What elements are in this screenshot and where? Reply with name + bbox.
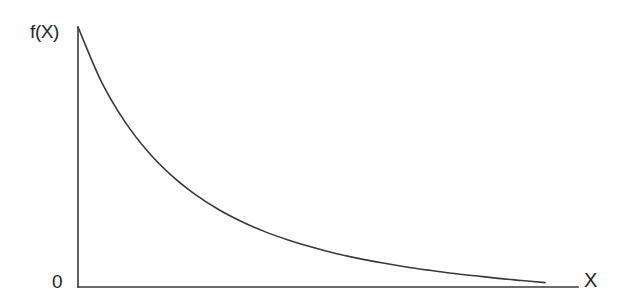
exponential-decay-curve <box>78 27 545 283</box>
x-axis-label: X <box>584 270 597 290</box>
y-axis-label: f(X) <box>30 22 59 41</box>
plot-canvas <box>0 0 622 306</box>
exponential-decay-figure: f(X) 0 X <box>0 0 622 306</box>
origin-label: 0 <box>52 272 63 291</box>
